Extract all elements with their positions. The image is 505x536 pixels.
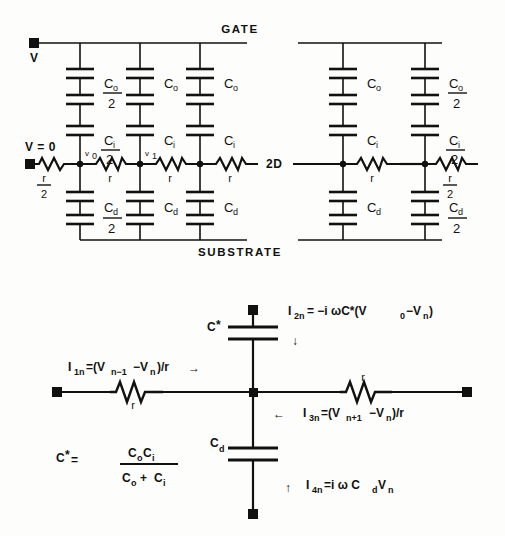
i1n-symbol: I xyxy=(68,360,71,374)
i1n-tail: )/r xyxy=(157,360,169,374)
i1n-arrow-icon: → xyxy=(188,361,200,375)
cap-star-superscript: * xyxy=(216,318,221,332)
cap-label-ci-half-r-den: 2 xyxy=(451,152,458,167)
i2n-minus: −V xyxy=(406,304,421,318)
node-dot xyxy=(197,161,203,167)
source-terminal-label: V = 0 xyxy=(25,140,56,154)
resistor-r-2 xyxy=(140,158,200,170)
resistor-r-4 xyxy=(343,158,400,170)
resistor-label-r1: r xyxy=(108,172,112,184)
cap-label-cd-half-num: C xyxy=(104,200,113,215)
gate-terminal-square xyxy=(29,38,39,48)
bottom-top-terminal-square xyxy=(248,305,258,315)
cap-labels-inner-2: C o C i C d xyxy=(224,76,238,217)
source-terminal-square xyxy=(25,159,35,169)
substrate-rail-label: SUBSTRATE xyxy=(198,246,282,258)
node-label-v1: v xyxy=(145,149,149,158)
branch-right-end xyxy=(411,43,439,240)
resistor-label-r3: r xyxy=(228,172,232,184)
i2n-symbol: I xyxy=(288,304,291,318)
cstar-den-a: C xyxy=(122,471,131,485)
i2n-arrow-icon: ↓ xyxy=(292,334,298,348)
node-dot xyxy=(422,161,428,167)
cstar-num-b-sub: i xyxy=(152,453,155,463)
circuit-figure: GATE V SUBSTRATE xyxy=(0,0,505,536)
cap-d-sub: d xyxy=(219,444,225,454)
i3n-expr: =(V xyxy=(321,406,340,420)
i4n-expsub2: n xyxy=(388,485,394,495)
cap-label-cd-2: C xyxy=(224,200,233,215)
i1n-minus: −V xyxy=(133,360,148,374)
bottom-left-terminal-square xyxy=(52,387,62,397)
current-i3n: ← I 3n =(V n+1 −V n )/r xyxy=(273,406,404,423)
cap-label-ci-1: C xyxy=(164,133,173,148)
i4n-expr: =i ω C xyxy=(324,478,360,492)
two-d-label: 2D xyxy=(266,157,282,171)
resistor-labels: r 2 r r r r r 2 xyxy=(37,172,457,200)
cap-sub-ci-3: i xyxy=(376,140,378,150)
cap-sub-ci-1: i xyxy=(173,140,175,150)
cstar-lhs: C xyxy=(56,451,65,465)
cap-labels-right-1: C o C i C d xyxy=(367,76,381,217)
resistor-half-right-den: 2 xyxy=(447,188,453,200)
cap-sub-co-1: o xyxy=(173,83,178,93)
cap-sub-ci-half-r: i xyxy=(458,140,460,150)
cap-label-ci-3: C xyxy=(367,133,376,148)
cstar-num-b: C xyxy=(143,446,152,460)
cap-label-co-half-num: C xyxy=(104,76,113,91)
bottom-resistor-left-label: r xyxy=(131,399,135,411)
i2n-expr: = −i ωC*(V xyxy=(307,304,367,318)
cap-d-label: C xyxy=(210,436,219,450)
branch-inner-2 xyxy=(186,43,214,240)
resistor-left xyxy=(110,382,163,402)
i3n-minus: −V xyxy=(369,406,384,420)
i3n-expsub2: n xyxy=(386,413,392,423)
cap-star-label: C xyxy=(207,320,216,334)
cap-label-co-3: C xyxy=(367,76,376,91)
cap-sub-co-3: o xyxy=(376,83,381,93)
resistor-half-left-num: r xyxy=(42,172,46,184)
cap-sub-co-half: o xyxy=(113,83,118,93)
cap-sub-ci-half: i xyxy=(113,140,115,150)
cstar-den-b: C xyxy=(154,471,163,485)
resistor-r-3 xyxy=(200,158,258,170)
cap-label-cd-1: C xyxy=(164,200,173,215)
i4n-symbol: I xyxy=(306,478,309,492)
node-sub-v0: 0 xyxy=(92,151,97,161)
cap-label-co-half-den: 2 xyxy=(108,96,115,111)
cap-sub-cd-1: d xyxy=(173,207,178,217)
i1n-subscript: 1n xyxy=(74,367,85,377)
gate-terminal-label: V xyxy=(30,51,39,65)
node-dot-v0 xyxy=(77,161,83,167)
bottom-circuit: C * C d r r I 1n =(V n−1 −V n xyxy=(52,304,472,519)
i3n-arrow-icon: ← xyxy=(273,407,285,421)
i2n-subscript: 2n xyxy=(294,311,305,321)
i2n-expsub2: n xyxy=(423,311,429,321)
node-label-v0: v xyxy=(85,149,89,158)
current-i4n: ↑ I 4n =i ω C d V n xyxy=(285,478,394,495)
i4n-arrow-icon: ↑ xyxy=(285,481,291,495)
cstar-plus: + xyxy=(140,471,147,485)
cap-labels-inner-1: C o C i C d xyxy=(164,76,178,217)
cap-sub-co-half-r: o xyxy=(458,83,463,93)
bottom-resistor-right-label: r xyxy=(361,371,365,383)
cap-label-ci-half-den: 2 xyxy=(106,152,113,167)
gate-rail-label: GATE xyxy=(221,23,259,35)
i3n-symbol: I xyxy=(303,406,306,420)
current-i2n: I 2n = −i ωC*(V 0 −V n ) ↓ xyxy=(288,304,433,348)
i1n-expsub2: n xyxy=(150,367,156,377)
cap-sub-cd-2: d xyxy=(233,207,238,217)
i3n-expsub1: n+1 xyxy=(346,413,362,423)
cap-sub-cd-3: d xyxy=(376,207,381,217)
cap-label-ci-half-r-num: C xyxy=(449,133,458,148)
cap-sub-co-2: o xyxy=(233,83,238,93)
cap-label-cd-3: C xyxy=(367,200,376,215)
node-sub-v1: 1 xyxy=(152,151,157,161)
resistor-label-r2: r xyxy=(168,172,172,184)
node-dot xyxy=(340,161,346,167)
i3n-tail: )/r xyxy=(392,406,404,420)
bottom-bottom-terminal-square xyxy=(248,509,258,519)
cstar-num-a: C xyxy=(128,446,137,460)
branch-left-end xyxy=(66,43,94,240)
cap-sub-cd-half: d xyxy=(113,207,118,217)
